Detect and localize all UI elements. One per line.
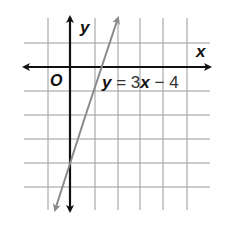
equation-label: y = 3x − 4: [101, 73, 179, 92]
x-axis-label: x: [195, 42, 207, 61]
grid: [24, 18, 210, 210]
y-axis-label: y: [79, 18, 91, 37]
origin-label: O: [50, 72, 63, 89]
coordinate-plane: y x O y = 3x − 4: [0, 0, 226, 229]
axes: [24, 17, 210, 211]
